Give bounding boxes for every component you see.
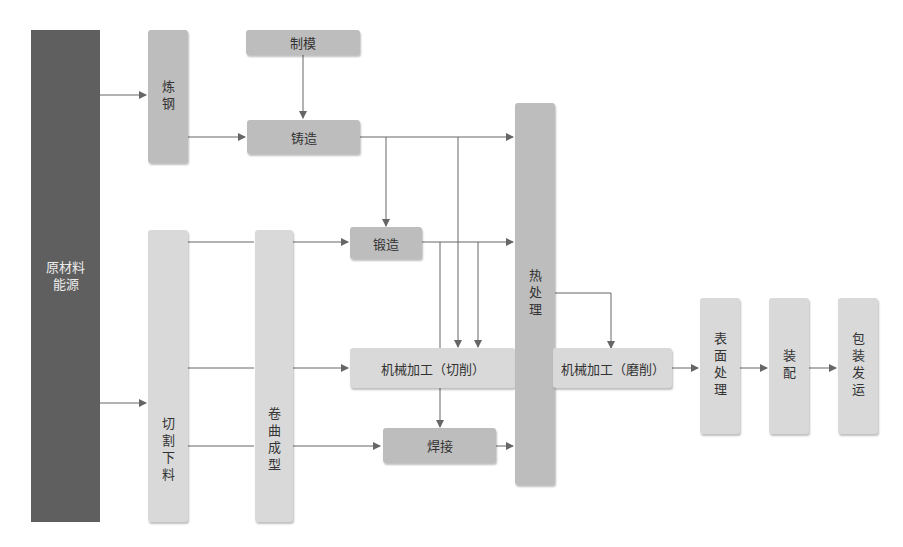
node-machining-grinding: 机械加工（磨削） (553, 348, 672, 388)
node-label: 铸造 (291, 128, 317, 147)
node-cutting-blanking: 切割下料 (148, 230, 188, 522)
connectors (0, 0, 903, 547)
node-label: 表面处理 (714, 332, 727, 400)
node-label: 锻造 (373, 234, 399, 253)
process-flow-diagram: 原材料 能源 炼钢 制模 铸造 锻造 切割下料 卷曲成型 机械加工（切削） 焊接… (0, 0, 903, 547)
node-forging: 锻造 (350, 227, 422, 259)
node-label: 包装发运 (852, 332, 865, 400)
node-label: 焊接 (427, 436, 453, 455)
node-label: 制模 (290, 33, 316, 52)
node-heat-treatment: 热处理 (515, 103, 555, 485)
node-rolling-forming: 卷曲成型 (255, 230, 293, 522)
node-packing-shipping: 包装发运 (838, 298, 878, 434)
node-label: 炼钢 (162, 80, 175, 114)
node-casting: 铸造 (247, 120, 360, 154)
node-label: 卷曲成型 (268, 407, 281, 475)
node-label: 机械加工（切削） (381, 359, 485, 378)
node-assembly: 装配 (769, 298, 809, 434)
node-machining-cutting: 机械加工（切削） (350, 348, 515, 388)
node-welding: 焊接 (383, 428, 496, 463)
node-label: 原材料 能源 (46, 259, 85, 293)
node-label: 机械加工（磨削） (561, 359, 665, 378)
node-surface-treatment: 表面处理 (700, 298, 740, 434)
node-steelmaking: 炼钢 (148, 30, 188, 163)
node-label: 装配 (783, 349, 796, 383)
node-label: 切割下料 (162, 417, 175, 485)
node-raw-materials-energy: 原材料 能源 (31, 30, 100, 522)
node-moldmaking: 制模 (246, 30, 360, 55)
node-label: 热处理 (529, 269, 542, 320)
